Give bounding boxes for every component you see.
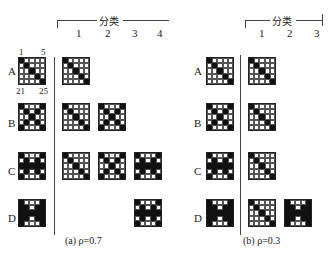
panel-a-class-4: 4: [157, 27, 163, 39]
panel-a-input-pattern-C: [18, 152, 46, 180]
panel-b-class-pattern-A: [248, 57, 276, 85]
pattern-cell: [40, 79, 45, 84]
pattern-cell: [270, 79, 275, 84]
panel-a-class-3: 3: [132, 27, 138, 39]
pattern-cell: [40, 125, 45, 130]
panel-b-header-line-left: [245, 20, 270, 21]
panel-a-class-pattern-B: [98, 103, 126, 131]
panel-a-caption: (a) ρ=0.7: [65, 235, 102, 246]
panel-a-row-A: A: [8, 65, 16, 77]
panel-b-divider: [240, 55, 241, 235]
pattern-cell: [228, 125, 233, 130]
panel-b-class-pattern-A: [248, 199, 276, 227]
panel-a-input-pattern-A: [18, 57, 46, 85]
pattern-cell: [40, 174, 45, 179]
corner-label-21: 21: [16, 86, 25, 96]
pattern-cell: [228, 79, 233, 84]
panel-a-row-D: D: [8, 212, 16, 224]
panel-b-class-pattern-D: [284, 199, 312, 227]
panel-b-class-2: 2: [287, 27, 293, 39]
panel-b-row-C: C: [194, 165, 201, 177]
panel-a-class-1: 1: [76, 27, 82, 39]
corner-label-1: 1: [19, 47, 24, 57]
panel-b-input-pattern-B: [206, 103, 234, 131]
pattern-cell: [120, 174, 125, 179]
pattern-cell: [84, 125, 89, 130]
panel-b-header-tick-left: [245, 20, 246, 28]
panel-a-class-pattern-C: [134, 199, 162, 227]
panel-a-header-label: 分类: [99, 13, 119, 28]
pattern-cell: [270, 221, 275, 226]
panel-b-row-B: B: [194, 117, 201, 129]
panel-a-class-pattern-C: [134, 152, 162, 180]
panel-b-input-pattern-A: [206, 57, 234, 85]
pattern-cell: [228, 221, 233, 226]
pattern-cell: [156, 221, 161, 226]
pattern-cell: [270, 174, 275, 179]
panel-a-row-C: C: [8, 165, 15, 177]
panel-b-caption: (b) ρ=0.3: [243, 235, 280, 246]
pattern-cell: [84, 174, 89, 179]
pattern-cell: [156, 174, 161, 179]
panel-b-row-D: D: [194, 212, 202, 224]
corner-label-25: 25: [39, 86, 48, 96]
pattern-cell: [120, 125, 125, 130]
panel-b-header-label: 分类: [272, 13, 292, 28]
panel-a-input-pattern-B: [18, 103, 46, 131]
panel-b-class-pattern-A: [248, 103, 276, 131]
pattern-cell: [84, 79, 89, 84]
panel-a-input-pattern-D: [18, 199, 46, 227]
panel-a-class-pattern-A: [62, 152, 90, 180]
panel-b-class-pattern-A: [248, 152, 276, 180]
panel-b-header-line-right: [296, 20, 322, 21]
panel-b-row-A: A: [194, 65, 202, 77]
pattern-cell: [40, 221, 45, 226]
pattern-cell: [270, 125, 275, 130]
panel-b-class-1: 1: [259, 27, 265, 39]
panel-b-header-tick-right: [322, 14, 323, 26]
panel-a-header-line-right: [123, 20, 169, 21]
panel-b-input-pattern-C: [206, 152, 234, 180]
pattern-cell: [228, 174, 233, 179]
panel-a-header-tick-left: [57, 20, 58, 28]
panel-a-header-line-left: [57, 20, 97, 21]
panel-b-class-3: 3: [314, 27, 320, 39]
panel-a-divider: [54, 57, 55, 235]
corner-label-5: 5: [41, 47, 46, 57]
pattern-cell: [306, 221, 311, 226]
panel-a-class-pattern-A: [62, 57, 90, 85]
panel-a-class-pattern-B: [98, 152, 126, 180]
panel-a-class-2: 2: [105, 27, 111, 39]
panel-a-class-pattern-A: [62, 103, 90, 131]
panel-a-row-B: B: [8, 117, 15, 129]
panel-b-input-pattern-D: [206, 199, 234, 227]
